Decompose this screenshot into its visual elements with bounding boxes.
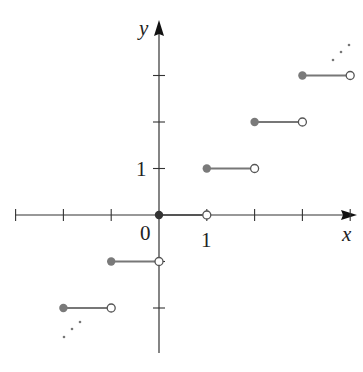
continuation-dot-icon [332,59,335,62]
open-endpoint-icon [298,118,306,126]
continuation-dot-icon [348,44,351,47]
open-endpoint-icon [203,211,211,219]
step-segment [203,164,259,172]
closed-endpoint-icon [59,304,67,312]
closed-endpoint-icon [298,71,306,79]
y-axis-arrow-icon [154,20,164,36]
y-tick-label-1: 1 [136,157,147,181]
step-segment [250,118,306,126]
x-tick-label-1: 1 [201,228,212,252]
step-segment [298,71,354,79]
axes [15,20,357,353]
x-axis-label: x [341,222,352,246]
open-endpoint-icon [346,72,354,80]
ticks [16,76,351,309]
x-axis-arrow-icon [341,210,357,220]
continuation-dot-icon [63,336,66,339]
floor-function-graph: y x 0 1 1 [0,0,363,372]
step-segment [107,257,163,265]
step-segment [59,304,115,312]
step-segment [155,211,211,219]
open-endpoint-icon [107,304,115,312]
closed-endpoint-icon [203,164,211,172]
open-endpoint-icon [155,258,163,266]
continuation-dots [63,44,351,339]
origin-label: 0 [140,221,151,245]
closed-endpoint-icon [155,211,163,219]
closed-endpoint-icon [107,257,115,265]
continuation-dot-icon [71,328,74,331]
y-axis-label: y [137,16,149,40]
open-endpoint-icon [251,165,259,173]
continuation-dot-icon [340,51,343,54]
closed-endpoint-icon [250,118,258,126]
step-segments [59,71,354,312]
continuation-dot-icon [79,321,82,324]
